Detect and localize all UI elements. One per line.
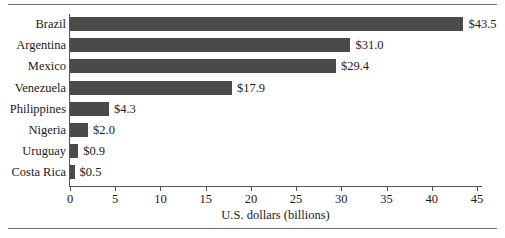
bar-nigeria[interactable] — [70, 123, 88, 137]
category-label-philippines: Philippines — [0, 102, 66, 116]
bar-uruguay[interactable] — [70, 144, 78, 158]
bar-costa-rica[interactable] — [70, 165, 75, 179]
bar-venezuela[interactable] — [70, 81, 232, 95]
category-label-nigeria: Nigeria — [0, 123, 66, 137]
bar-value-label: $0.9 — [83, 144, 105, 158]
x-axis-tick-label: 15 — [186, 192, 226, 206]
x-axis-tick — [296, 186, 297, 191]
x-axis-tick-label: 0 — [50, 192, 90, 206]
x-axis-tick — [160, 186, 161, 191]
x-axis-tick — [206, 186, 207, 191]
category-label-venezuela: Venezuela — [0, 81, 66, 95]
x-axis-title: U.S. dollars (billions) — [69, 208, 482, 222]
figure: $43.5$31.0$29.4$17.9$4.3$2.0$0.9$0.5 Bra… — [0, 0, 505, 238]
category-label-argentina: Argentina — [0, 38, 66, 52]
x-axis-tick — [70, 186, 71, 191]
bar-philippines[interactable] — [70, 102, 109, 116]
x-axis-tick — [432, 186, 433, 191]
bar-mexico[interactable] — [70, 59, 336, 73]
bar-value-label: $4.3 — [114, 102, 136, 116]
x-axis-tick-label: 40 — [412, 192, 452, 206]
x-axis-tick — [387, 186, 388, 191]
x-axis-tick-label: 35 — [367, 192, 407, 206]
x-axis-tick-label: 20 — [231, 192, 271, 206]
bar-value-label: $43.5 — [468, 17, 496, 31]
bar-value-label: $2.0 — [93, 123, 115, 137]
bar-value-label: $0.5 — [80, 165, 102, 179]
x-axis-tick-label: 5 — [95, 192, 135, 206]
category-label-uruguay: Uruguay — [0, 144, 66, 158]
x-axis-tick-label: 25 — [276, 192, 316, 206]
x-axis-tick — [341, 186, 342, 191]
x-axis-tick — [251, 186, 252, 191]
x-axis-tick — [477, 186, 478, 191]
bar-brazil[interactable] — [70, 17, 463, 31]
bar-value-label: $31.0 — [355, 38, 383, 52]
bar-value-label: $17.9 — [237, 81, 265, 95]
x-axis-tick-label: 30 — [321, 192, 361, 206]
bar-value-label: $29.4 — [341, 59, 369, 73]
bar-chart-plot-area: $43.5$31.0$29.4$17.9$4.3$2.0$0.9$0.5 Bra… — [0, 0, 505, 238]
category-label-brazil: Brazil — [0, 17, 66, 31]
x-axis-line — [69, 186, 482, 187]
category-label-costa-rica: Costa Rica — [0, 165, 66, 179]
x-axis-tick — [115, 186, 116, 191]
x-axis-tick-label: 10 — [140, 192, 180, 206]
bar-argentina[interactable] — [70, 38, 350, 52]
category-label-mexico: Mexico — [0, 59, 66, 73]
x-axis-tick-label: 45 — [457, 192, 497, 206]
